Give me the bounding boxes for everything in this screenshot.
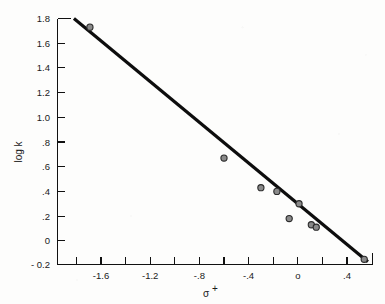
y-tick-label-4: 1.0	[37, 112, 50, 123]
data-point	[361, 256, 367, 262]
y-tick-label-7: .4	[42, 186, 50, 197]
y-tick-label-8: .2	[42, 211, 50, 222]
data-point	[286, 215, 292, 221]
x-tick-label-1: -1.2	[142, 270, 158, 281]
data-point	[87, 24, 93, 30]
scatter-plot-canvas: 1.8 1.6 1.4 1.2 1.0 .8 .6 .4 .2 0 - 0.2 …	[0, 0, 385, 304]
y-tick-label-2: 1.4	[37, 62, 50, 73]
x-tick-label-3: -.4	[243, 270, 254, 281]
x-axis-ticks	[76, 257, 347, 265]
x-tick-label-4: o	[295, 270, 300, 281]
data-point	[296, 201, 302, 207]
y-tick-label-3: 1.2	[37, 87, 50, 98]
y-axis-ticks	[58, 19, 65, 265]
x-tick-label-0: -1.6	[93, 270, 109, 281]
y-tick-label-0: 1.8	[37, 13, 50, 24]
x-axis-title-sigma: σ	[203, 288, 210, 299]
x-tick-label-5: .4	[343, 270, 351, 281]
hammett-plot-figure: 1.8 1.6 1.4 1.2 1.0 .8 .6 .4 .2 0 - 0.2 …	[0, 0, 385, 304]
x-axis-title: σ +	[203, 283, 218, 299]
y-axis-title: log k	[13, 140, 24, 162]
y-tick-label-6: .6	[42, 161, 50, 172]
x-axis-tick-labels: -1.6 -1.2 -.8 -.4 o .4	[93, 270, 351, 281]
least-squares-fit-line	[74, 19, 368, 262]
y-tick-label-5: .8	[42, 137, 50, 148]
data-point	[274, 188, 280, 194]
x-axis-title-superscript: +	[212, 283, 218, 294]
y-tick-label-9: 0	[45, 235, 50, 246]
y-axis-tick-labels: 1.8 1.6 1.4 1.2 1.0 .8 .6 .4 .2 0 - 0.2	[31, 13, 50, 270]
data-point	[258, 185, 264, 191]
y-tick-label-1: 1.6	[37, 38, 50, 49]
data-point	[313, 224, 319, 230]
x-tick-label-2: -.8	[194, 270, 205, 281]
y-tick-label-10: - 0.2	[31, 259, 50, 270]
data-point	[221, 155, 227, 161]
